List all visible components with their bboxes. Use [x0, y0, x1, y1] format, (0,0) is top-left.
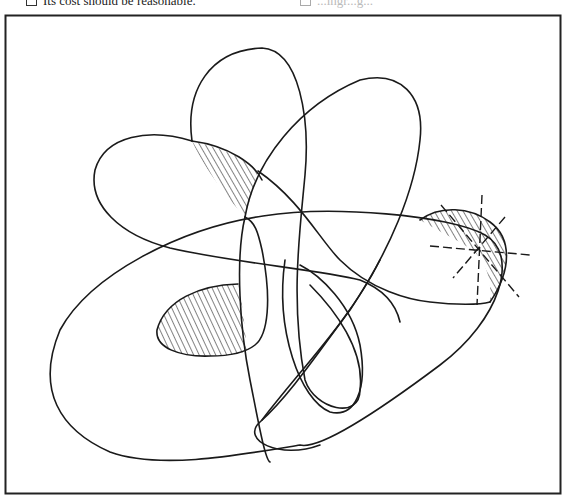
curve-diagonal-lower [262, 260, 380, 420]
curve-lower-loop [283, 260, 363, 413]
hatched-region-right-crescent [420, 210, 507, 302]
curve-large-ellipse [50, 211, 502, 460]
curve-upper-right-petal [245, 78, 421, 450]
hatched-region-left-lobe [157, 284, 247, 356]
curve-vertical-stroke [240, 217, 270, 462]
figure-drawing [0, 0, 567, 499]
